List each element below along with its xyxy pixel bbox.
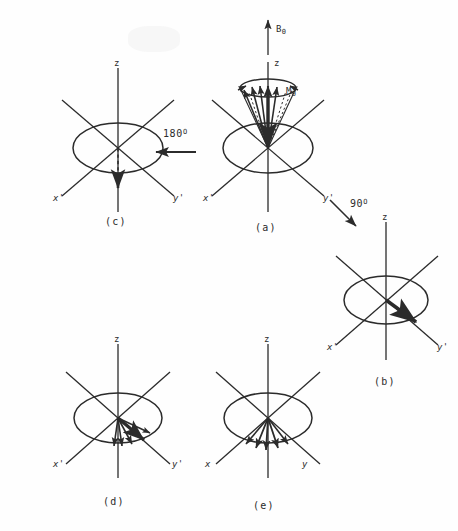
- panel-c-graphic: [62, 68, 174, 212]
- panel-e-x-axis-label: x: [205, 459, 211, 469]
- panel-a-y-axis-label: y': [323, 193, 335, 203]
- panel-b-x-axis-label: x': [327, 342, 339, 352]
- panel-d-x-axis-label: x': [53, 459, 65, 469]
- panel-e-y-axis-label: y: [302, 459, 308, 469]
- m0-vector-label: M0: [286, 86, 296, 98]
- panel-c-caption: (c): [105, 216, 127, 227]
- panel-e-z-axis-label: z: [264, 334, 270, 344]
- panel-c-z-axis-label: z: [114, 58, 120, 68]
- pulse-180-label: 180O: [163, 128, 188, 139]
- panel-a-caption: (a): [255, 222, 277, 233]
- panel-d-graphic: [66, 344, 170, 478]
- panel-b-z-axis-label: z: [382, 212, 388, 222]
- panel-b-y-axis-label: y': [437, 342, 449, 352]
- panel-e-graphic: [216, 344, 320, 478]
- pulse-90-label: 90O: [350, 198, 368, 209]
- panel-d-y-axis-label: y': [172, 459, 184, 469]
- nmr-vector-figure: B0 z M0 x' y' (a) z x' y' (c) z x' y' (b…: [0, 0, 458, 531]
- panel-b-caption: (b): [374, 376, 396, 387]
- panel-d-caption: (d): [103, 496, 125, 507]
- panel-a-z-axis-label: z: [274, 58, 280, 68]
- panel-d-z-axis-label: z: [114, 334, 120, 344]
- panel-a-graphic: [212, 20, 324, 212]
- panel-c-x-axis-label: x': [53, 193, 65, 203]
- panel-b-graphic: [336, 222, 438, 360]
- panel-e-caption: (e): [253, 500, 275, 511]
- panel-c-y-axis-label: y': [173, 193, 185, 203]
- b0-vector-label: B0: [276, 24, 286, 36]
- figure-canvas: [0, 0, 458, 531]
- panel-a-x-axis-label: x': [203, 193, 215, 203]
